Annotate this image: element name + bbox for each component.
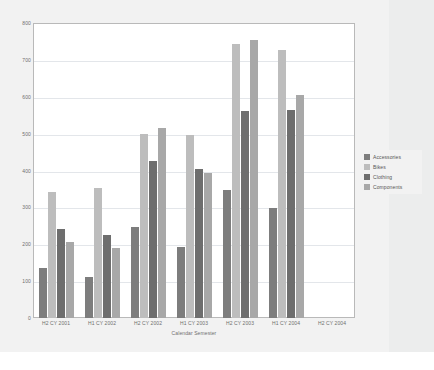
legend-item[interactable]: Bikes	[364, 162, 420, 171]
bar-group	[33, 23, 79, 318]
bar-group	[171, 23, 217, 318]
bar[interactable]	[223, 190, 231, 318]
x-tick-label: H2 CY 2003	[217, 320, 263, 327]
y-tick-label: 400	[3, 168, 31, 174]
bar-group	[217, 23, 263, 318]
y-tick-label: 700	[3, 57, 31, 63]
bar[interactable]	[39, 268, 47, 318]
x-tick-label: H2 CY 2002	[125, 320, 171, 327]
y-tick-label: 100	[3, 278, 31, 284]
x-tick-label: H2 CY 2001	[33, 320, 79, 327]
y-axis: 800 700 600 500 400 300 200 100 0	[0, 23, 31, 318]
y-tick-label: 800	[3, 20, 31, 26]
x-tick-label: H1 CY 2002	[79, 320, 125, 327]
legend-item-label: Bikes	[373, 164, 386, 170]
legend-item[interactable]: Accessories	[364, 152, 420, 161]
legend-item-label: Components	[373, 184, 402, 190]
bar[interactable]	[103, 235, 111, 318]
bar[interactable]	[112, 248, 120, 318]
y-tick-label: 600	[3, 94, 31, 100]
legend-swatch-icon	[364, 184, 370, 190]
bar-group	[125, 23, 171, 318]
bar[interactable]	[195, 169, 203, 318]
chart-root: 800 700 600 500 400 300 200 100 0 H2 CY …	[0, 0, 434, 370]
x-tick-label: H1 CY 2004	[263, 320, 309, 327]
bar[interactable]	[296, 95, 304, 318]
x-tick-label: H2 CY 2004	[309, 320, 355, 327]
bars-layer	[33, 23, 355, 318]
bar-group	[263, 23, 309, 318]
legend-swatch-icon	[364, 164, 370, 170]
bar-group	[309, 23, 355, 318]
bar[interactable]	[131, 227, 139, 318]
bar[interactable]	[232, 44, 240, 318]
y-tick-label: 300	[3, 204, 31, 210]
legend-item-label: Clothing	[373, 174, 392, 180]
legend: Accessories Bikes Clothing Components	[362, 150, 422, 194]
bar[interactable]	[287, 110, 295, 318]
bar[interactable]	[204, 173, 212, 318]
bar[interactable]	[48, 192, 56, 318]
bar[interactable]	[85, 277, 93, 318]
bar[interactable]	[241, 111, 249, 318]
bar[interactable]	[57, 229, 65, 318]
y-tick-label: 0	[3, 315, 31, 321]
bar[interactable]	[250, 40, 258, 318]
legend-item[interactable]: Components	[364, 182, 420, 191]
legend-swatch-icon	[364, 154, 370, 160]
y-tick-label: 500	[3, 131, 31, 137]
bar[interactable]	[278, 50, 286, 318]
bar[interactable]	[186, 135, 194, 318]
bar[interactable]	[158, 128, 166, 318]
y-tick-label: 200	[3, 241, 31, 247]
bar[interactable]	[140, 134, 148, 318]
bar[interactable]	[66, 242, 74, 318]
bar[interactable]	[269, 208, 277, 318]
legend-item-label: Accessories	[373, 154, 401, 160]
legend-swatch-icon	[364, 174, 370, 180]
bar[interactable]	[149, 161, 157, 318]
bar-group	[79, 23, 125, 318]
bar[interactable]	[94, 188, 102, 318]
x-tick-label: H1 CY 2003	[171, 320, 217, 327]
x-axis-title: Calendar Semester	[33, 330, 355, 336]
bar[interactable]	[177, 247, 185, 318]
legend-item[interactable]: Clothing	[364, 172, 420, 181]
